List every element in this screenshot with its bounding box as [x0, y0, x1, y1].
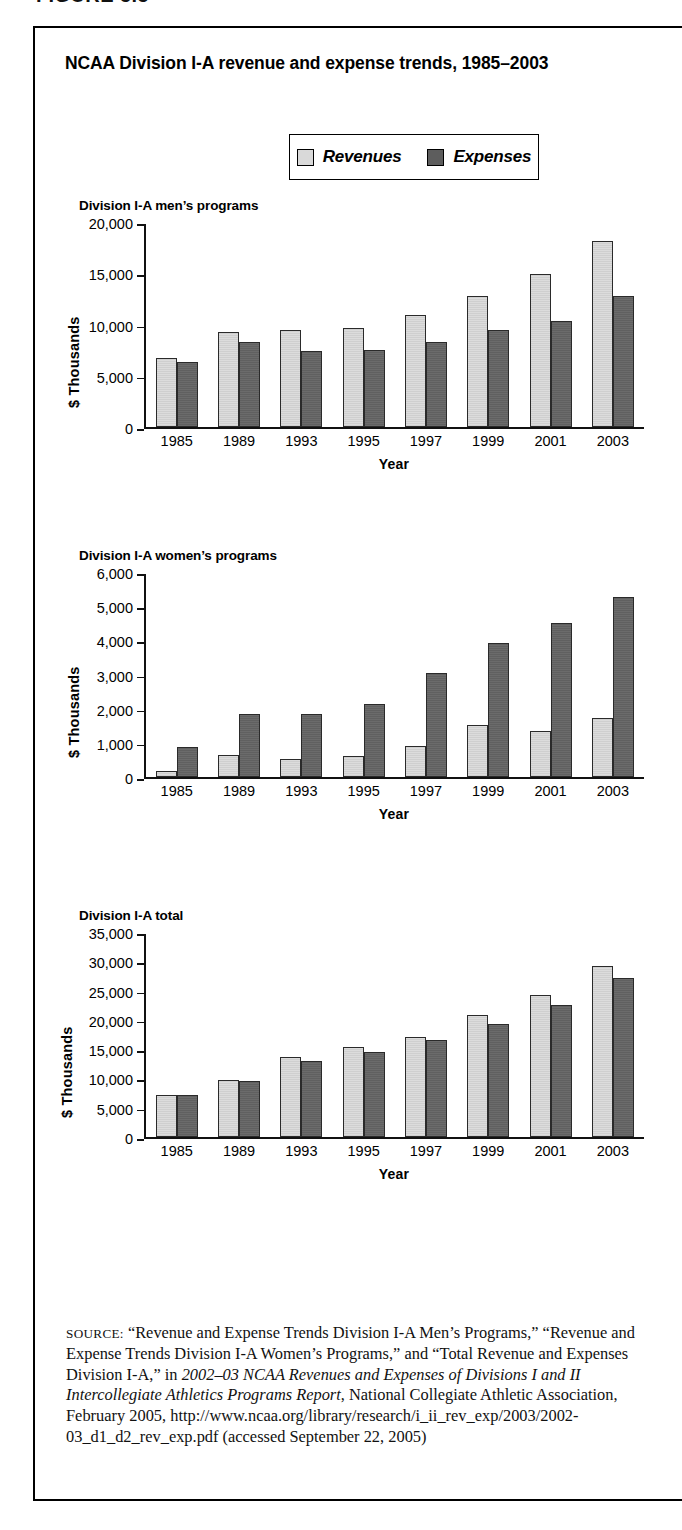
panel-title-total: Division I-A total: [79, 908, 183, 923]
y-tick-mark: [137, 963, 144, 965]
bar-expenses-1999: [488, 1024, 509, 1137]
bar-revenues-1995: [343, 756, 364, 778]
bar-revenues-1999: [467, 1015, 488, 1137]
plot-area-total: 05,00010,00015,00020,00025,00030,00035,0…: [144, 934, 644, 1139]
x-tick-label: 1995: [332, 1143, 394, 1159]
x-tick-label: 1993: [270, 1143, 332, 1159]
y-tick-mark: [137, 779, 144, 781]
bar-expenses-1993: [301, 714, 322, 778]
bar-revenues-2003: [592, 241, 613, 428]
bar-group: [208, 224, 270, 427]
bar-expenses-1993: [301, 1061, 322, 1138]
bar-group: [146, 574, 208, 777]
y-tick-label: 30,000: [89, 955, 133, 971]
y-tick-label: 5,000: [97, 1102, 133, 1118]
bar-groups: [146, 224, 644, 427]
bar-revenues-1995: [343, 1047, 364, 1138]
x-tick-label: 1999: [457, 1143, 519, 1159]
bar-group: [457, 574, 519, 777]
bar-group: [457, 934, 519, 1137]
x-tick-label: 2003: [582, 1143, 644, 1159]
bar-group: [146, 934, 208, 1137]
bar-revenues-1997: [405, 746, 426, 777]
x-tick-label: 1997: [395, 433, 457, 449]
bar-group: [395, 934, 457, 1137]
legend-label-expenses: Expenses: [453, 147, 531, 167]
x-tick-label: 1985: [146, 1143, 208, 1159]
bar-expenses-2001: [551, 321, 572, 428]
y-tick-mark: [137, 224, 144, 226]
y-tick-label: 6,000: [97, 566, 133, 582]
legend-swatch-expenses: [427, 149, 444, 166]
legend-item-revenues: Revenues: [297, 147, 402, 167]
chart-legend: Revenues Expenses: [289, 134, 539, 180]
y-tick-mark: [137, 1139, 144, 1141]
x-tick-labels: 19851989199319951997199920012003: [146, 433, 644, 449]
y-axis-title-total: $ Thousands: [59, 1026, 75, 1118]
bar-revenues-1999: [467, 725, 488, 777]
y-tick-mark: [137, 934, 144, 936]
y-tick-label: 4,000: [97, 634, 133, 650]
x-tick-label: 2001: [519, 783, 581, 799]
bar-group: [582, 934, 644, 1137]
x-tick-label: 1995: [332, 433, 394, 449]
bar-expenses-2003: [613, 597, 634, 777]
bar-group: [395, 224, 457, 427]
bar-expenses-2003: [613, 978, 634, 1137]
y-tick-mark: [137, 327, 144, 329]
bar-revenues-2001: [530, 274, 551, 428]
bar-expenses-1995: [364, 1052, 385, 1137]
bar-group: [582, 224, 644, 427]
x-tick-label: 1989: [208, 433, 270, 449]
bar-expenses-1989: [239, 342, 260, 427]
y-tick-label: 2,000: [97, 703, 133, 719]
bar-revenues-1999: [467, 296, 488, 427]
y-axis-title-mens: $ Thousands: [66, 316, 82, 408]
y-tick-label: 5,000: [97, 600, 133, 616]
x-tick-label: 1997: [395, 1143, 457, 1159]
y-tick-label: 5,000: [97, 370, 133, 386]
bar-group: [332, 224, 394, 427]
page-title: NCAA Division I-A revenue and expense tr…: [65, 53, 548, 74]
bar-expenses-1995: [364, 350, 385, 428]
bar-expenses-1995: [364, 704, 385, 777]
y-tick-mark: [137, 574, 144, 576]
bar-expenses-1997: [426, 1040, 447, 1138]
legend-swatch-revenues: [297, 149, 314, 166]
bar-expenses-1985: [177, 1095, 198, 1137]
figure-number: FIGURE 5.5: [36, 0, 149, 7]
y-tick-label: 0: [125, 771, 133, 787]
x-axis-line: [144, 427, 644, 429]
bar-group: [519, 224, 581, 427]
y-tick-mark: [137, 642, 144, 644]
x-tick-label: 1989: [208, 783, 270, 799]
y-tick-label: 0: [125, 1131, 133, 1147]
bar-group: [519, 934, 581, 1137]
x-axis-line: [144, 777, 644, 779]
bar-group: [270, 934, 332, 1137]
bar-group: [208, 934, 270, 1137]
x-tick-label: 1993: [270, 433, 332, 449]
x-tick-label: 1997: [395, 783, 457, 799]
bar-revenues-1989: [218, 332, 239, 427]
bar-revenues-2003: [592, 718, 613, 777]
y-tick-label: 20,000: [89, 216, 133, 232]
bar-expenses-2001: [551, 1005, 572, 1137]
bar-revenues-1993: [280, 1057, 301, 1137]
bar-expenses-1997: [426, 673, 447, 777]
bar-group: [146, 224, 208, 427]
bar-revenues-1997: [405, 1037, 426, 1138]
x-axis-title-mens: Year: [144, 456, 644, 472]
bar-revenues-1989: [218, 1080, 239, 1137]
figure-frame: NCAA Division I-A revenue and expense tr…: [33, 26, 682, 1501]
bar-revenues-2001: [530, 995, 551, 1137]
y-tick-mark: [137, 429, 144, 431]
x-tick-label: 1995: [332, 783, 394, 799]
bar-expenses-1997: [426, 342, 447, 427]
bar-groups: [146, 934, 644, 1137]
bar-group: [332, 934, 394, 1137]
bar-group: [395, 574, 457, 777]
panel-title-mens: Division I-A men’s programs: [79, 198, 258, 213]
y-tick-mark: [137, 1022, 144, 1024]
y-tick-mark: [137, 993, 144, 995]
